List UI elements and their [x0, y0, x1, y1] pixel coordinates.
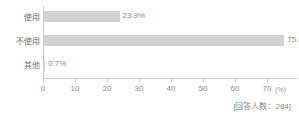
- horizontal-bar-chart: 使用 不使用 其他 23.9% 75.4% 0.7% 0 10 20 30 40…: [0, 0, 299, 122]
- bar-value-0: 23.9%: [123, 9, 146, 23]
- x-tick-mark-1: [75, 79, 76, 82]
- x-axis-line: [43, 78, 297, 79]
- bar-row: 75.4%: [43, 32, 299, 54]
- x-tick-mark-4: [171, 79, 172, 82]
- x-tick-mark-0: [43, 79, 44, 82]
- plot-area: 23.9% 75.4% 0.7%: [43, 6, 299, 78]
- x-tick-mark-2: [107, 79, 108, 82]
- x-tick-mark-6: [235, 79, 236, 82]
- bar-2[interactable]: [43, 59, 45, 70]
- x-tick-mark-7: [267, 79, 268, 82]
- bar-row: 0.7%: [43, 56, 299, 78]
- x-tick-label-5: 50: [199, 83, 208, 95]
- bar-1[interactable]: [43, 35, 284, 46]
- x-tick-mark-3: [139, 79, 140, 82]
- x-tick-label-4: 40: [167, 83, 176, 95]
- x-tick-label-6: 60: [231, 83, 240, 95]
- x-tick-label-1: 10: [71, 83, 80, 95]
- x-tick-label-7: 70: [263, 83, 272, 95]
- x-tick-mark-5: [203, 79, 204, 82]
- bar-value-1: 75.4%: [287, 33, 299, 47]
- respondent-count-note: [回答人数：284]: [233, 101, 291, 113]
- x-tick-label-3: 30: [135, 83, 144, 95]
- category-label-0: 使用: [0, 11, 40, 25]
- x-tick-label-0: 0: [41, 83, 45, 95]
- bar-value-2: 0.7%: [48, 57, 66, 71]
- category-label-2: 其他: [0, 59, 40, 73]
- x-axis-unit-label: (%): [275, 84, 286, 96]
- bar-0[interactable]: [43, 11, 120, 22]
- bar-row: 23.9%: [43, 8, 299, 30]
- category-label-1: 不使用: [0, 35, 40, 49]
- x-tick-label-2: 20: [103, 83, 112, 95]
